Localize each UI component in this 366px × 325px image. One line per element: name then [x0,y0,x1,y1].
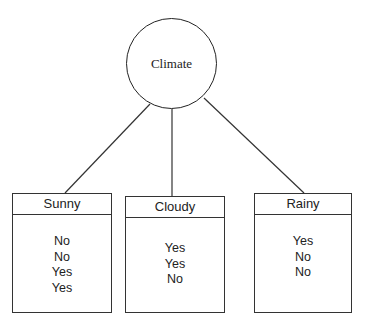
leaf-value: No [13,250,111,266]
leaf-header: Rainy [255,194,351,215]
leaf-value: No [13,234,111,250]
leaf-node-rainy: Rainy Yes No No [254,193,352,313]
leaf-value: No [126,272,224,288]
edge-rainy [204,98,304,193]
edge-sunny [65,104,150,193]
leaf-value: Yes [255,234,351,250]
leaf-value: No [255,265,351,281]
leaf-values: Yes No No [255,215,351,281]
leaf-node-cloudy: Cloudy Yes Yes No [125,196,225,313]
leaf-values: No No Yes Yes [13,215,111,296]
leaf-values: Yes Yes No [126,218,224,288]
root-node-climate: Climate [126,18,217,109]
leaf-header: Sunny [13,194,111,215]
leaf-value: No [255,250,351,266]
leaf-value: Yes [13,281,111,297]
leaf-value: Yes [13,265,111,281]
leaf-header: Cloudy [126,197,224,218]
root-label: Climate [151,56,192,72]
leaf-value: Yes [126,241,224,257]
leaf-node-sunny: Sunny No No Yes Yes [12,193,112,313]
leaf-value: Yes [126,257,224,273]
